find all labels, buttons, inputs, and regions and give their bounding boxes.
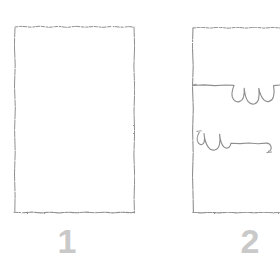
cloud-lower-tick-left: [197, 131, 201, 132]
panel-2-frame-top: [193, 27, 280, 28]
panel-2-number: 2: [192, 224, 280, 258]
panel-2-group: [192, 27, 280, 213]
panel-2-frame-left: [192, 28, 193, 212]
panel-1-frame-top: [15, 26, 134, 27]
cloud-line-upper: [193, 85, 280, 104]
cloud-lower-tick-right: [267, 152, 272, 153]
panel-1-number: 1: [0, 224, 134, 258]
panel-1-frame-bottom: [14, 212, 135, 213]
cloud-upper-tick: [194, 84, 197, 85]
panel-1-group: [14, 26, 135, 213]
panel-1-frame-left: [14, 28, 15, 212]
panel-1-frame-right: [134, 27, 135, 213]
sketch-canvas: [0, 0, 280, 262]
panel-2-frame-bottom: [193, 212, 280, 213]
cloud-line-lower: [197, 133, 271, 152]
